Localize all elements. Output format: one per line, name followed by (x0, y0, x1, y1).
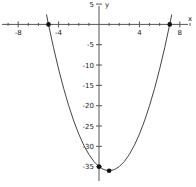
data-point-x-intercept-left[interactable] (46, 22, 51, 27)
y-axis-label: y (105, 1, 109, 9)
data-point-x-intercept-right[interactable] (167, 22, 172, 27)
y-axis-tick-label: -20 (83, 102, 94, 110)
graph-canvas: -8-4485-5-10-15-20-25-30-35xy (0, 0, 196, 187)
x-axis-tick-label: 8 (178, 29, 182, 37)
data-point-y-intercept[interactable] (97, 164, 102, 169)
y-axis-tick-label: 5 (90, 1, 94, 9)
parabola-plot: -8-4485-5-10-15-20-25-30-35xy (0, 0, 196, 187)
y-axis-tick-label: -25 (83, 123, 94, 131)
parabola-curve (46, 14, 171, 170)
x-axis-tick-label: -8 (15, 29, 22, 37)
y-axis-tick-label: -35 (83, 163, 94, 171)
x-axis-tick-label: -4 (55, 29, 63, 37)
y-axis-tick-label: -10 (83, 62, 94, 70)
x-axis-label: x (188, 15, 192, 23)
x-axis-tick-label: 4 (137, 29, 142, 37)
y-axis-tick-label: -5 (87, 41, 94, 49)
data-point-vertex[interactable] (107, 168, 112, 173)
y-axis-tick-label: -15 (83, 82, 94, 90)
